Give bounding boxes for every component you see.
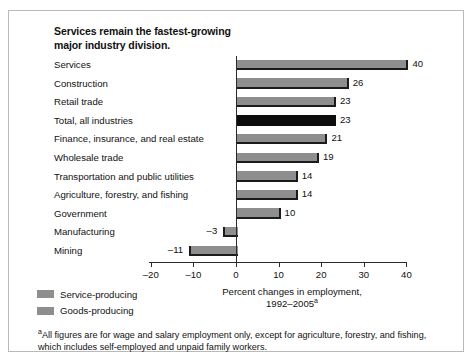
legend-item: Service-producing — [37, 287, 137, 301]
x-tick-label: –10 — [185, 269, 201, 280]
chart-row: Transportation and public utilities14 — [9, 168, 465, 187]
category-label: Retail trade — [54, 96, 103, 107]
x-tick-label: 10 — [273, 269, 284, 280]
category-label: Government — [54, 208, 107, 219]
footnote-text: All figures are for wage and salary empl… — [38, 330, 426, 352]
chart-row: Retail trade23 — [9, 93, 465, 112]
legend-swatch-service — [37, 290, 54, 298]
bar-goods — [189, 246, 238, 257]
x-tick-label: 40 — [401, 269, 412, 280]
chart-title-line-1: Services remain the fastest-growing — [54, 25, 384, 39]
bar-value-label: 23 — [340, 114, 351, 125]
chart-row: Agriculture, forestry, and fishing14 — [9, 186, 465, 205]
legend-swatch-goods — [37, 307, 54, 315]
x-tick — [279, 262, 280, 267]
x-tick — [364, 262, 365, 267]
x-tick — [406, 262, 407, 267]
footnote: aAll figures are for wage and salary emp… — [38, 329, 442, 353]
bar-value-label: –3 — [207, 225, 218, 236]
chart-row: Manufacturing–3 — [9, 223, 465, 242]
bar-service — [236, 97, 336, 108]
figure-frame: Services remain the fastest-growing majo… — [8, 10, 464, 352]
chart-row: Wholesale trade19 — [9, 149, 465, 168]
bar-value-label: –11 — [168, 244, 183, 255]
legend-item: Goods-producing — [37, 304, 137, 318]
x-axis-label-line-2: 1992–2005 — [266, 298, 314, 309]
category-label: Agriculture, forestry, and fishing — [54, 189, 188, 200]
x-tick — [321, 262, 322, 267]
category-label: Wholesale trade — [54, 152, 123, 163]
x-tick-label: 0 — [233, 269, 238, 280]
x-tick — [236, 262, 237, 267]
chart-row: Construction26 — [9, 75, 465, 94]
bar-value-label: 14 — [302, 170, 313, 181]
chart-row: Services40 — [9, 56, 465, 75]
bar-value-label: 21 — [331, 132, 342, 143]
bar-service — [236, 153, 319, 164]
x-tick-label: –20 — [143, 269, 159, 280]
legend: Service-producingGoods-producing — [37, 287, 137, 320]
x-axis-label-footnote-marker: a — [314, 297, 318, 304]
category-label: Manufacturing — [54, 226, 115, 237]
category-label: Finance, insurance, and real estate — [54, 133, 204, 144]
legend-label: Goods-producing — [60, 305, 134, 316]
legend-label: Service-producing — [60, 289, 137, 300]
bar-value-label: 19 — [323, 151, 334, 162]
bar-service — [236, 171, 298, 182]
category-label: Services — [54, 59, 91, 70]
bar-goods — [236, 78, 349, 89]
chart-row: Government10 — [9, 205, 465, 224]
chart-title: Services remain the fastest-growing majo… — [54, 25, 384, 52]
x-tick-label: 30 — [358, 269, 369, 280]
bar-value-label: 40 — [412, 58, 423, 69]
bar-goods — [236, 190, 298, 201]
x-tick-label: 20 — [316, 269, 327, 280]
bar-value-label: 10 — [285, 207, 296, 218]
chart-row: Mining–11 — [9, 242, 465, 261]
category-label: Total, all industries — [54, 115, 133, 126]
category-label: Transportation and public utilities — [54, 171, 194, 182]
bar-total — [236, 115, 336, 126]
category-label: Mining — [54, 245, 82, 256]
chart-title-line-2: major industry division. — [54, 39, 384, 53]
chart-row: Total, all industries23 — [9, 112, 465, 131]
plot-area: Services40Construction26Retail trade23To… — [9, 56, 465, 261]
category-label: Construction — [54, 78, 108, 89]
chart-row: Finance, insurance, and real estate21 — [9, 130, 465, 149]
bar-service — [236, 134, 327, 145]
bar-service — [236, 60, 408, 71]
bar-value-label: 14 — [302, 188, 313, 199]
bar-service — [236, 208, 281, 219]
x-tick — [193, 262, 194, 267]
bar-value-label: 26 — [353, 77, 364, 88]
bar-value-label: 23 — [340, 95, 351, 106]
x-axis-label-line-1: Percent changes in employment, — [222, 286, 362, 297]
x-tick — [151, 262, 152, 267]
zero-axis-line — [236, 56, 237, 262]
x-axis-label: Percent changes in employment, 1992–2005… — [197, 286, 387, 310]
